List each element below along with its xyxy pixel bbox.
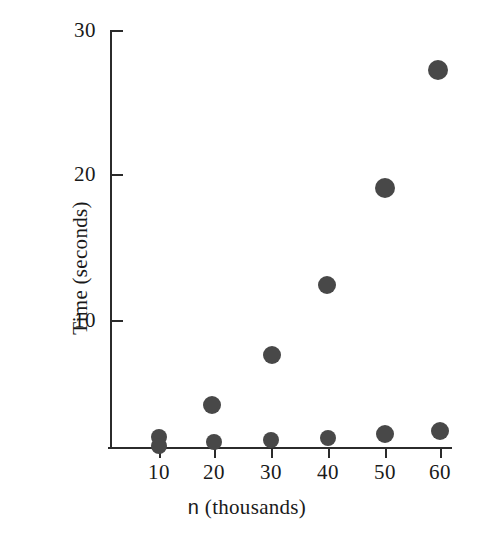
x-tick-label: 10 [148, 462, 170, 483]
y-tick-mark [110, 30, 123, 32]
y-axis-line [110, 30, 112, 448]
x-tick-mark [440, 447, 442, 458]
x-tick-mark [328, 447, 330, 458]
data-point [263, 432, 279, 448]
x-axis-title-rest: (thousands) [199, 495, 306, 519]
data-point [376, 425, 394, 443]
x-tick-label: 50 [374, 462, 396, 483]
data-point [320, 430, 336, 446]
data-point [428, 60, 448, 80]
y-tick-mark [110, 174, 123, 176]
x-tick-label: 40 [317, 462, 339, 483]
y-tick-label: 30 [48, 20, 96, 41]
x-axis-title: n (thousands) [0, 495, 494, 520]
data-point [263, 346, 281, 364]
x-tick-label: 20 [203, 462, 225, 483]
scatter-plot-figure: Time (seconds) 302010 102030405060 n (th… [0, 0, 494, 536]
y-tick-label: 20 [48, 164, 96, 185]
x-tick-mark [271, 447, 273, 458]
data-point [375, 178, 395, 198]
x-tick-label: 30 [260, 462, 282, 483]
y-tick-mark [110, 320, 123, 322]
data-point [206, 434, 222, 450]
plot-area: 302010 102030405060 [110, 30, 450, 448]
data-point [431, 422, 449, 440]
x-axis-title-variable: n [188, 496, 199, 518]
x-tick-label: 60 [429, 462, 451, 483]
data-point [318, 276, 336, 294]
data-point [203, 396, 221, 414]
data-point [151, 438, 167, 454]
y-tick-label: 10 [48, 310, 96, 331]
x-tick-mark [385, 447, 387, 458]
